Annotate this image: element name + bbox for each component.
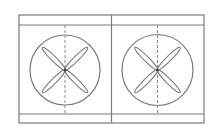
- fan-diagram: [0, 0, 214, 134]
- fan-blade-icon: [63, 46, 89, 72]
- fan-blade-icon: [63, 68, 89, 94]
- fan-blade-icon: [156, 68, 182, 94]
- fan-blade-icon: [41, 46, 67, 72]
- outer-frame: [19, 15, 204, 123]
- fan-blade-icon: [41, 68, 67, 94]
- fan-panel-left: [30, 25, 100, 114]
- fan-hub: [64, 69, 67, 72]
- fan-hub: [156, 69, 159, 72]
- fan-panel-right: [122, 25, 193, 114]
- fan-blade-icon: [133, 68, 159, 94]
- fan-blade-icon: [133, 46, 159, 72]
- fan-blade-icon: [156, 46, 182, 72]
